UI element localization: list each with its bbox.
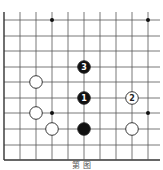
star-point-icon [50,111,54,115]
star-point-icon [50,18,54,22]
diagram-caption: 第 图 [0,161,163,170]
move-number: 1 [81,94,87,103]
white-stone [30,76,43,89]
white-stone [126,123,139,136]
white-stone [30,107,43,120]
star-point-icon [146,111,150,115]
go-board-diagram: 312 [0,0,163,170]
white-stone [46,123,59,136]
move-number: 3 [81,63,87,72]
board-grid [4,12,160,160]
move-number: 2 [129,94,135,103]
black-stone: 1 [78,92,91,105]
black-stone [78,123,91,136]
star-point-icon [146,18,150,22]
black-stone: 3 [78,61,91,74]
white-stone: 2 [126,92,139,105]
